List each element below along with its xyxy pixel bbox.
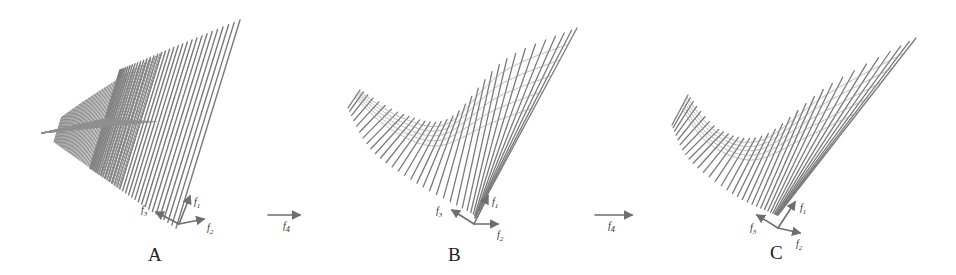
ruling-line: [765, 96, 815, 209]
ruling-line: [777, 46, 900, 215]
ruling-line: [778, 41, 910, 214]
transform-label-f4: f4: [283, 220, 290, 234]
ruling-line: [475, 49, 526, 216]
axis-f3-arrow: [757, 215, 778, 228]
ruling-line: [698, 134, 728, 168]
axis-label-f1-c: f1: [800, 202, 806, 216]
ruling-line: [476, 40, 546, 217]
ruling-line: [168, 25, 229, 223]
ruling-line: [774, 71, 854, 214]
axis-label-f1-b: f1: [492, 196, 498, 210]
ruling-line: [430, 111, 460, 191]
ruling-line: [386, 120, 419, 163]
axis-f2-arrow: [778, 228, 800, 233]
surface-panel-a: [42, 20, 240, 228]
axis-label-f3-c: f3: [750, 222, 756, 236]
axis-label-f3-b: f3: [436, 205, 442, 219]
axis-label-f2-a: f2: [207, 222, 213, 236]
ruling-line: [473, 53, 515, 214]
transform-label-f4: f4: [608, 220, 615, 234]
ruling-line: [450, 88, 478, 202]
ruling-line: [371, 115, 404, 149]
ruling-line: [689, 129, 719, 159]
ruling-line: [475, 33, 564, 217]
ruling-line: [172, 22, 234, 225]
axis-label-f1-a: f1: [194, 196, 200, 210]
ruling-line: [367, 112, 398, 143]
transformation-diagram: [0, 0, 956, 275]
panel-label-b: B: [448, 244, 461, 266]
axis-label-f2-b: f2: [497, 229, 503, 243]
surface-panel-b: [348, 28, 577, 224]
panel-label-a: A: [148, 244, 162, 266]
ruling-line: [176, 20, 240, 228]
panel-label-c: C: [770, 242, 783, 264]
surface-panel-c: [672, 38, 916, 233]
axis-label-f2-c: f2: [796, 238, 802, 252]
axis-f2-arrow: [179, 219, 204, 224]
ruling-line: [164, 27, 223, 219]
ruling-line: [778, 38, 916, 215]
ruling-line: [672, 95, 688, 125]
ruling-line: [475, 28, 577, 218]
axis-label-f3-a: f3: [141, 204, 147, 218]
ruling-line: [693, 132, 723, 163]
ruling-line: [475, 36, 555, 217]
ruling-line: [436, 104, 465, 194]
